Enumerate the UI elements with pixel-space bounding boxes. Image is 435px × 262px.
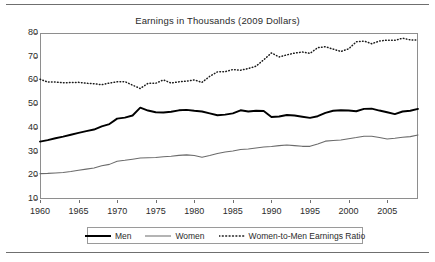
chart-legend: MenWomenWomen-to-Men Earnings Ratio <box>87 227 363 244</box>
x-tick-mark <box>310 200 311 203</box>
legend-item-women[interactable]: Women <box>145 231 204 241</box>
x-tick-mark <box>387 200 388 203</box>
legend-item-women-to-men-earnings-ratio[interactable]: Women-to-Men Earnings Ratio <box>219 231 366 241</box>
series-line-women-to-men-earnings-ratio <box>40 38 418 88</box>
legend-swatch-icon <box>219 232 245 240</box>
x-tick-mark <box>349 200 350 203</box>
x-tick-label: 1970 <box>97 206 137 216</box>
x-tick-mark <box>117 200 118 203</box>
y-axis: 8070605040302010 <box>8 33 38 199</box>
series-line-women <box>40 135 418 174</box>
legend-label: Women <box>175 231 204 241</box>
y-tick-label: 60 <box>14 74 38 84</box>
chart-figure: Earnings in Thousands (2009 Dollars) 807… <box>0 0 435 262</box>
y-tick-label: 80 <box>14 27 38 37</box>
y-tick-mark <box>34 175 38 176</box>
y-tick-label: 70 <box>14 51 38 61</box>
y-tick-mark <box>34 152 38 153</box>
x-tick-label: 1965 <box>59 206 99 216</box>
x-tick-mark <box>194 200 195 203</box>
x-tick-mark <box>271 200 272 203</box>
legend-label: Women-to-Men Earnings Ratio <box>249 231 366 241</box>
y-tick-label: 30 <box>14 146 38 156</box>
x-tick-label: 1975 <box>136 206 176 216</box>
y-tick-mark <box>34 57 38 58</box>
y-tick-mark <box>34 104 38 105</box>
top-divider-rule <box>6 4 429 5</box>
x-tick-label: 2005 <box>367 206 407 216</box>
legend-label: Men <box>115 231 132 241</box>
chart-title: Earnings in Thousands (2009 Dollars) <box>0 15 435 26</box>
y-tick-label: 40 <box>14 122 38 132</box>
x-tick-mark <box>40 200 41 203</box>
bottom-divider-rule <box>6 252 429 253</box>
x-tick-label: 1990 <box>251 206 291 216</box>
x-tick-label: 1995 <box>290 206 330 216</box>
x-tick-mark <box>233 200 234 203</box>
y-tick-mark <box>34 33 38 34</box>
y-tick-label: 50 <box>14 98 38 108</box>
x-tick-label: 1980 <box>174 206 214 216</box>
legend-swatch-icon <box>145 232 171 240</box>
x-tick-label: 1960 <box>20 206 60 216</box>
legend-item-men[interactable]: Men <box>85 231 132 241</box>
x-axis: 1960196519701975198019851990199520002005 <box>40 200 418 222</box>
x-tick-mark <box>156 200 157 203</box>
y-tick-mark <box>34 80 38 81</box>
y-tick-mark <box>34 199 38 200</box>
x-tick-mark <box>79 200 80 203</box>
x-tick-label: 1985 <box>213 206 253 216</box>
legend-swatch-icon <box>85 232 111 240</box>
series-lines <box>40 33 418 199</box>
plot-area <box>40 33 418 199</box>
y-tick-label: 20 <box>14 169 38 179</box>
x-tick-label: 2000 <box>329 206 369 216</box>
y-tick-label: 10 <box>14 193 38 203</box>
y-tick-mark <box>34 128 38 129</box>
